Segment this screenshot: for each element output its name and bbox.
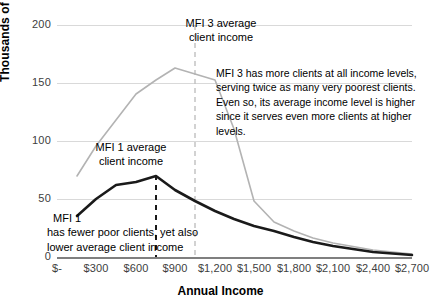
annotation-mfi3-note: MFI 3 has more clients at all income lev… (216, 66, 428, 138)
annotation-mfi1-note-line3: lower average client income (47, 240, 247, 254)
y-axis-tick-50: 50 (5, 192, 51, 204)
annotation-mfi3-marker-line1: MFI 3 average (162, 16, 280, 30)
annotation-mfi1-note-line1: MFI 1 (47, 211, 247, 225)
annotation-mfi3-note-line3: Even so, its average income level is hig… (216, 95, 428, 109)
annotation-mfi3-note-line2: serving twice as many very poorest clien… (216, 80, 428, 94)
annotation-mfi1-marker-label: MFI 1 average client income (75, 140, 187, 169)
annotation-mfi1-note: MFI 1 has fewer poor clients, yet also l… (47, 211, 247, 254)
annotation-mfi3-note-line5: levels. (216, 124, 428, 138)
annotation-mfi3-note-line4: since it serves even more clients at hig… (216, 109, 428, 123)
annotation-mfi3-note-line1: MFI 3 has more clients at all income lev… (216, 66, 428, 80)
y-axis-tick-150: 150 (5, 76, 51, 88)
annotation-mfi1-note-line2: has fewer poor clients, yet also (47, 225, 247, 239)
annotation-mfi3-marker-label: MFI 3 average client income (162, 16, 280, 45)
annotation-mfi1-marker-line1: MFI 1 average (75, 140, 187, 154)
chart-figure: Thousands of Clients 200 150 100 50 0 $-… (0, 0, 441, 308)
x-axis-title: Annual Income (0, 284, 441, 298)
y-axis-tick-0: 0 (5, 250, 51, 262)
annotation-mfi1-marker-line2: client income (75, 154, 187, 168)
y-axis-tick-100: 100 (5, 134, 51, 146)
annotation-mfi3-marker-line2: client income (162, 30, 280, 44)
x-axis-tick-2700: $2,700 (382, 262, 441, 274)
y-axis-tick-200: 200 (5, 18, 51, 30)
